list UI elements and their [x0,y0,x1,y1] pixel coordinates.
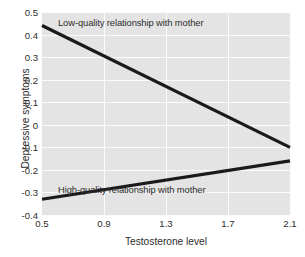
x-axis-title: Testosterone level [42,236,290,247]
annotation-high-quality: High-quality relationship with mother [58,184,205,195]
annotation-low-quality: Low-quality relationship with mother [58,17,203,28]
y-axis-tick-label: -0.3 [0,187,38,198]
x-axis-tick-label: 0.9 [84,218,124,229]
x-axis-tick-label: 2.1 [270,218,305,229]
y-axis-tick-label: -0.2 [0,164,38,175]
y-axis-tick-label: 0.1 [0,97,38,108]
y-axis-tick-label: 0.5 [0,7,38,18]
x-axis-tick-label: 0.5 [22,218,62,229]
gridline-vertical [290,12,291,215]
x-axis-tick-label: 1.3 [146,218,186,229]
y-axis-tick-label: -0.1 [0,142,38,153]
gridline-horizontal [42,215,290,216]
x-axis-tick-label: 1.7 [208,218,248,229]
y-axis-tick-label: 0.3 [0,52,38,63]
y-axis-tick-label: 0.2 [0,74,38,85]
y-axis-tick-label: 0 [0,119,38,130]
y-axis-tick-label: 0.4 [0,29,38,40]
line-low-quality [42,26,290,148]
chart-figure: Depressive symptoms 0.50.40.30.20.10-0.1… [0,0,305,257]
plot-area: Low-quality relationship with mother Hig… [42,12,290,215]
